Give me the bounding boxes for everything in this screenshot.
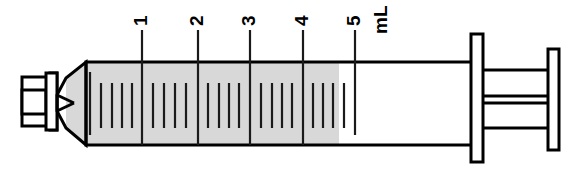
- luer-collar-flange: [46, 73, 57, 130]
- syringe-figure: 1 2 3 4 5 mL: [0, 0, 577, 170]
- luer-tip-stem: [22, 90, 46, 114]
- liquid-fill-barrel: [86, 62, 339, 145]
- scale-units-label: mL: [370, 5, 391, 34]
- thumb-rest: [548, 49, 559, 150]
- finger-flange-group: [471, 34, 483, 162]
- scale-label-2: 2: [186, 15, 207, 26]
- scale-labels-group: 1 2 3 4 5 mL: [130, 5, 391, 34]
- finger-flange: [471, 34, 483, 162]
- thumb-rest-group: [548, 49, 559, 150]
- scale-label-1: 1: [130, 15, 151, 26]
- plunger-rod-group: [483, 70, 550, 128]
- luer-tip-group: [22, 73, 57, 130]
- syringe-illustration: 1 2 3 4 5 mL: [0, 0, 577, 170]
- scale-label-3: 3: [238, 15, 259, 26]
- liquid-fill-group: [66, 62, 339, 145]
- scale-label-4: 4: [291, 15, 312, 26]
- scale-label-5: 5: [343, 15, 364, 26]
